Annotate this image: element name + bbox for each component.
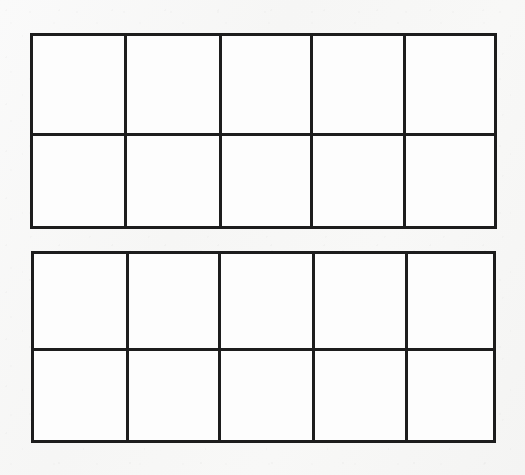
ten-frame-1-cell-r2c4-label — [313, 136, 403, 226]
ten-frame-1-cell-r2c1-label — [33, 136, 124, 226]
ten-frame-1-cell-r1c3[interactable] — [222, 36, 310, 133]
worksheet-page — [0, 0, 525, 475]
ten-frame-1-cell-r1c1[interactable] — [33, 36, 124, 133]
ten-frame-2-cell-r2c3[interactable] — [221, 351, 312, 440]
ten-frame-1-cell-r2c5[interactable] — [406, 136, 494, 226]
ten-frame-2[interactable] — [31, 251, 496, 443]
ten-frame-1-cell-r1c2-label — [127, 36, 219, 133]
ten-frame-2-cell-r2c3-label — [221, 351, 312, 440]
ten-frame-2-cell-r2c4[interactable] — [315, 351, 405, 440]
ten-frame-1-cell-r2c2-label — [127, 136, 219, 226]
ten-frame-1-cell-r1c2[interactable] — [127, 36, 219, 133]
ten-frame-1-cell-r2c3-label — [222, 136, 310, 226]
ten-frame-1-cell-r1c5[interactable] — [406, 36, 494, 133]
ten-frame-2-cell-r1c4-label — [315, 254, 405, 348]
ten-frame-2-cell-r2c4-label — [315, 351, 405, 440]
ten-frame-1-cell-r2c1[interactable] — [33, 136, 124, 226]
ten-frame-2-cell-r1c4[interactable] — [315, 254, 405, 348]
ten-frame-2-cell-r2c2[interactable] — [129, 351, 218, 440]
ten-frame-1-inner — [33, 36, 494, 226]
ten-frame-2-cell-r1c3-label — [221, 254, 312, 348]
ten-frame-2-cell-r1c2-label — [129, 254, 218, 348]
ten-frame-2-cell-r2c5-label — [408, 351, 493, 440]
ten-frame-2-cell-r2c1-label — [34, 351, 126, 440]
ten-frame-2-cell-r1c5-label — [408, 254, 493, 348]
ten-frame-2-cell-r2c5[interactable] — [408, 351, 493, 440]
ten-frame-2-cell-r1c5[interactable] — [408, 254, 493, 348]
ten-frame-2-cell-r1c3[interactable] — [221, 254, 312, 348]
ten-frame-2-cell-r1c2[interactable] — [129, 254, 218, 348]
ten-frame-2-cell-r1c1[interactable] — [34, 254, 126, 348]
ten-frame-1-cell-r1c1-label — [33, 36, 124, 133]
ten-frame-1-cell-r1c3-label — [222, 36, 310, 133]
ten-frame-1-cell-r1c4[interactable] — [313, 36, 403, 133]
ten-frame-1[interactable] — [30, 33, 497, 229]
ten-frame-2-cell-r2c2-label — [129, 351, 218, 440]
ten-frame-1-cell-r2c4[interactable] — [313, 136, 403, 226]
ten-frame-1-cell-r1c4-label — [313, 36, 403, 133]
ten-frame-1-cell-r2c2[interactable] — [127, 136, 219, 226]
ten-frame-1-cell-r2c3[interactable] — [222, 136, 310, 226]
ten-frame-1-cell-r2c5-label — [406, 136, 494, 226]
ten-frame-2-cell-r2c1[interactable] — [34, 351, 126, 440]
ten-frame-2-cell-r1c1-label — [34, 254, 126, 348]
ten-frame-2-inner — [34, 254, 493, 440]
ten-frame-1-cell-r1c5-label — [406, 36, 494, 133]
